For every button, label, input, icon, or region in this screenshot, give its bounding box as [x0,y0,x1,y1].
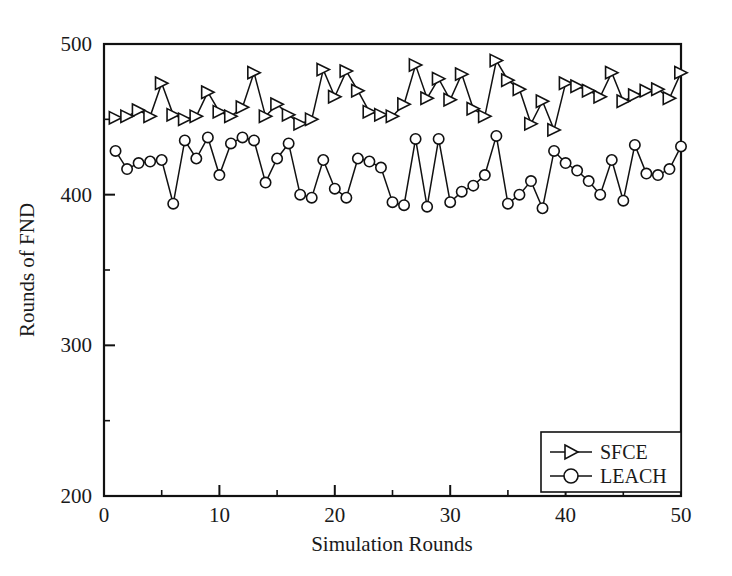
circle-marker [180,135,190,145]
circle-marker [341,192,351,202]
circle-marker [353,153,363,163]
circle-marker [583,176,593,186]
circle-icon [564,469,578,483]
circle-marker [203,132,213,142]
x-axis-title: Simulation Rounds [311,532,473,556]
circle-marker [295,189,305,199]
circle-marker [445,197,455,207]
circle-marker [641,168,651,178]
circle-marker [630,140,640,150]
x-tick-label: 10 [209,503,230,527]
circle-marker [307,192,317,202]
circle-marker [272,153,282,163]
circle-marker [560,158,570,168]
circle-marker [249,135,259,145]
circle-marker [491,131,501,141]
x-tick-label: 20 [324,503,345,527]
y-tick-label: 500 [61,32,93,56]
y-axis-tick-labels: 200300400500 [61,32,93,508]
circle-marker [526,176,536,186]
x-tick-label: 50 [671,503,692,527]
line-chart-canvas: 01020304050 200300400500 Simulation Roun… [0,0,732,576]
circle-marker [433,134,443,144]
circle-marker [410,134,420,144]
circle-marker [549,146,559,156]
circle-marker [595,189,605,199]
y-tick-label: 200 [61,484,93,508]
y-axis-title: Rounds of FND [15,203,39,337]
circle-marker [214,170,224,180]
circle-marker [664,164,674,174]
circle-marker [399,200,409,210]
circle-marker [110,146,120,156]
circle-marker [457,186,467,196]
circle-marker [537,203,547,213]
circle-marker [157,155,167,165]
circle-marker [133,158,143,168]
x-tick-label: 30 [440,503,461,527]
circle-marker [514,189,524,199]
x-tick-label: 40 [555,503,576,527]
y-tick-label: 300 [61,333,93,357]
x-axis-tick-labels: 01020304050 [99,503,692,527]
circle-marker [572,165,582,175]
chart-legend[interactable]: SFCE LEACH [541,432,681,492]
circle-marker [676,141,686,151]
chart-figure: 01020304050 200300400500 Simulation Roun… [0,0,732,576]
circle-marker [422,202,432,212]
circle-marker [168,199,178,209]
circle-marker [376,162,386,172]
circle-marker [237,132,247,142]
circle-marker [122,164,132,174]
x-tick-label: 0 [99,503,110,527]
circle-marker [318,155,328,165]
circle-marker [480,170,490,180]
circle-marker [260,177,270,187]
y-tick-label: 400 [61,183,93,207]
circle-marker [618,195,628,205]
circle-marker [330,183,340,193]
circle-marker [364,156,374,166]
circle-marker [468,180,478,190]
circle-marker [191,153,201,163]
legend-label-leach: LEACH [600,465,667,487]
circle-marker [283,138,293,148]
circle-marker [387,197,397,207]
circle-marker [145,156,155,166]
circle-marker [607,155,617,165]
circle-marker [653,170,663,180]
legend-label-sfce: SFCE [600,441,648,463]
circle-marker [503,199,513,209]
circle-marker [226,138,236,148]
